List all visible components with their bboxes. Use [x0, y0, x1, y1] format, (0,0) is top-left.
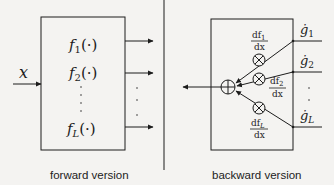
multiply-node-2 [253, 73, 265, 85]
forward-caption: forward version [50, 169, 129, 181]
derivative-label-L: dfL dx [250, 118, 268, 140]
derivative-label-2: df2 dx [269, 76, 286, 99]
function-f2: f2(·) [68, 64, 97, 83]
svg-text:df2: df2 [270, 76, 284, 88]
vertical-ellipsis-inputs [308, 87, 310, 101]
input-label-g1: ġ1 [300, 22, 314, 39]
multiply-node-L [253, 102, 265, 114]
vertical-ellipsis-outputs [136, 87, 138, 116]
backward-caption: backward version [212, 169, 301, 181]
function-f1: f1(·) [68, 36, 97, 55]
sum-node [221, 80, 235, 94]
function-fL: fL(·) [66, 120, 96, 139]
vertical-ellipsis-inner [80, 86, 82, 112]
backward-diagram: df1 dx df2 dx dfL dx ġ1 ġ2 ġL backward v… [183, 19, 322, 181]
input-label-g2: ġ2 [300, 53, 314, 70]
multiply-node-1 [253, 54, 265, 66]
svg-text:dx: dx [254, 42, 265, 52]
svg-text:dfL: dfL [251, 118, 265, 130]
input-label-gL: ġL [300, 108, 314, 125]
svg-text:dx: dx [272, 89, 283, 99]
svg-text:dx: dx [254, 130, 265, 140]
input-label: x [19, 63, 28, 82]
forward-diagram: x f1(·) f2(·) fL(·) forward version [13, 17, 153, 181]
derivative-label-1: df1 dx [251, 30, 268, 52]
svg-text:df1: df1 [252, 30, 266, 42]
diagram-canvas: x f1(·) f2(·) fL(·) forward version [0, 0, 334, 185]
